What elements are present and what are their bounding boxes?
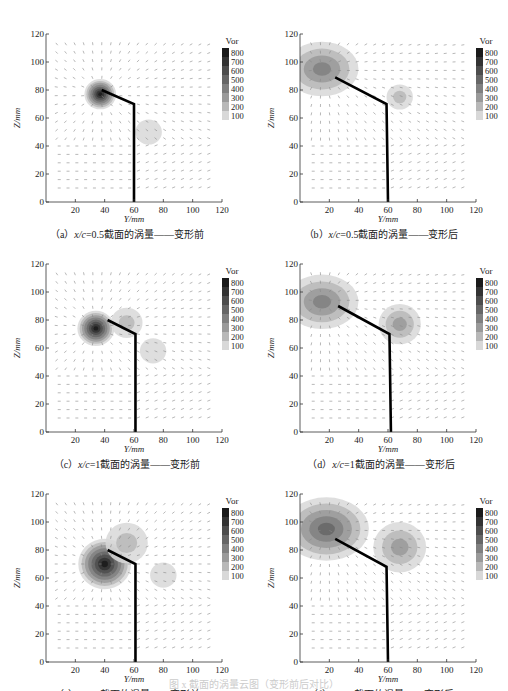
x-tick-label: 80 [413, 435, 423, 445]
vortex-core [150, 563, 176, 588]
chart-panel-a: 02040608010012020406080100120Y/mmZ/mmVor… [0, 0, 254, 228]
vorticity-plot: 02040608010012020406080100120Y/mmZ/mmVor… [254, 460, 508, 688]
y-tick-label: 40 [289, 141, 299, 151]
vorticity-plot: 02040608010012020406080100120Y/mmZ/mmVor… [0, 0, 254, 228]
svg-text:Vor: Vor [480, 36, 493, 46]
y-tick-label: 80 [289, 315, 299, 325]
x-tick-label: 120 [215, 665, 229, 675]
svg-text:Vor: Vor [226, 496, 239, 506]
x-tick-label: 20 [71, 665, 81, 675]
y-tick-label: 40 [289, 601, 299, 611]
x-tick-label: 40 [100, 205, 110, 215]
y-tick-label: 100 [285, 517, 299, 527]
figure-caption: 图 x 截面的涡量云图（变形前后对比） [0, 676, 508, 691]
y-tick-label: 120 [31, 29, 45, 39]
y-tick-label: 120 [285, 259, 299, 269]
colorbar-legend: Vor800700600500400300200100 [222, 36, 244, 121]
y-tick-label: 20 [35, 169, 45, 179]
x-tick-label: 40 [354, 665, 364, 675]
svg-text:Vor: Vor [480, 266, 493, 276]
chart-panel-d: 02040608010012020406080100120Y/mmZ/mmVor… [254, 230, 508, 458]
x-tick-label: 120 [469, 435, 483, 445]
svg-text:Vor: Vor [480, 496, 493, 506]
x-tick-label: 80 [159, 205, 169, 215]
velocity-vectors [55, 272, 211, 418]
y-tick-label: 100 [285, 287, 299, 297]
y-tick-label: 60 [289, 573, 299, 583]
colorbar-legend: Vor800700600500400300200100 [222, 266, 244, 351]
y-tick-label: 40 [35, 601, 45, 611]
x-axis-label: Y/mm [124, 444, 145, 454]
x-tick-label: 20 [325, 435, 335, 445]
y-axis-label: Z/mm [266, 567, 276, 588]
x-axis-label: Y/mm [124, 214, 145, 224]
y-tick-label: 20 [289, 629, 299, 639]
colorbar-legend: Vor800700600500400300200100 [222, 496, 244, 581]
vortex-core [140, 338, 166, 363]
y-axis-label: Z/mm [12, 337, 22, 358]
y-tick-label: 100 [285, 57, 299, 67]
x-tick-label: 100 [440, 665, 454, 675]
y-tick-label: 100 [31, 517, 45, 527]
x-tick-label: 120 [215, 205, 229, 215]
vortex-core [379, 304, 421, 344]
y-tick-label: 0 [40, 657, 45, 667]
y-tick-label: 0 [294, 427, 299, 437]
vortex-core [106, 523, 148, 563]
y-axis-label: Z/mm [12, 107, 22, 128]
x-tick-label: 80 [159, 435, 169, 445]
x-tick-label: 80 [159, 665, 169, 675]
svg-text:Vor: Vor [226, 266, 239, 276]
y-tick-label: 40 [289, 371, 299, 381]
svg-text:100: 100 [485, 341, 498, 351]
wing-geometry [335, 77, 388, 202]
svg-text:100: 100 [231, 571, 244, 581]
x-tick-label: 100 [440, 205, 454, 215]
y-tick-label: 120 [285, 489, 299, 499]
x-tick-label: 40 [354, 205, 364, 215]
y-tick-label: 60 [289, 343, 299, 353]
axes [46, 264, 222, 432]
x-axis-label: Y/mm [378, 444, 399, 454]
colorbar-legend: Vor800700600500400300200100 [476, 496, 498, 581]
x-tick-label: 20 [325, 665, 335, 675]
y-tick-label: 20 [289, 399, 299, 409]
y-tick-label: 60 [289, 113, 299, 123]
y-tick-label: 120 [31, 489, 45, 499]
y-tick-label: 80 [35, 85, 45, 95]
chart-panel-f: 02040608010012020406080100120Y/mmZ/mmVor… [254, 460, 508, 688]
y-tick-label: 80 [35, 545, 45, 555]
svg-text:100: 100 [231, 341, 244, 351]
chart-panel-c: 02040608010012020406080100120Y/mmZ/mmVor… [0, 230, 254, 458]
svg-text:100: 100 [231, 111, 244, 121]
vorticity-plot: 02040608010012020406080100120Y/mmZ/mmVor… [0, 460, 254, 688]
x-tick-label: 20 [325, 205, 335, 215]
chart-panel-e: 02040608010012020406080100120Y/mmZ/mmVor… [0, 460, 254, 688]
x-tick-label: 80 [413, 205, 423, 215]
vortex-core [135, 119, 161, 144]
y-tick-label: 20 [289, 169, 299, 179]
y-tick-label: 60 [35, 573, 45, 583]
svg-text:Vor: Vor [226, 36, 239, 46]
y-axis-label: Z/mm [266, 107, 276, 128]
y-tick-label: 0 [40, 427, 45, 437]
x-tick-label: 20 [71, 435, 81, 445]
y-tick-label: 0 [40, 197, 45, 207]
y-tick-label: 100 [31, 287, 45, 297]
x-tick-label: 100 [186, 205, 200, 215]
y-axis-label: Z/mm [12, 567, 22, 588]
velocity-vectors [55, 42, 211, 188]
vorticity-plot: 02040608010012020406080100120Y/mmZ/mmVor… [254, 0, 508, 228]
svg-text:100: 100 [485, 571, 498, 581]
y-tick-label: 80 [289, 545, 299, 555]
y-tick-label: 20 [35, 399, 45, 409]
chart-panel-b: 02040608010012020406080100120Y/mmZ/mmVor… [254, 0, 508, 228]
y-tick-label: 60 [35, 113, 45, 123]
x-tick-label: 100 [440, 435, 454, 445]
y-tick-label: 60 [35, 343, 45, 353]
y-tick-label: 40 [35, 371, 45, 381]
x-tick-label: 80 [413, 665, 423, 675]
y-tick-label: 80 [289, 85, 299, 95]
x-tick-label: 40 [100, 435, 110, 445]
vorticity-plot: 02040608010012020406080100120Y/mmZ/mmVor… [254, 230, 508, 458]
